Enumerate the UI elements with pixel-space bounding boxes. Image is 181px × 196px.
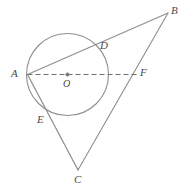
point-label-E: E xyxy=(37,114,44,125)
point-label-F: F xyxy=(140,67,147,78)
point-label-D: D xyxy=(100,40,108,51)
point-label-C: C xyxy=(74,174,81,185)
point-label-A: A xyxy=(11,68,18,79)
point-label-O: O xyxy=(63,78,70,89)
segment-BC xyxy=(78,13,168,170)
center-dot-O xyxy=(66,73,69,76)
segment-AC-inner xyxy=(29,77,79,171)
geometry-canvas xyxy=(0,0,181,196)
point-label-B: B xyxy=(171,5,178,16)
geometry-figure: A B C D E F O xyxy=(0,0,181,196)
